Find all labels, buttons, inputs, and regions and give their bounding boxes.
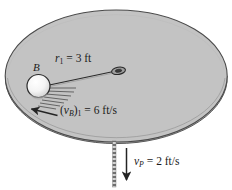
ball-velocity-sub-body: B <box>69 109 74 118</box>
ball-label: B <box>33 62 40 73</box>
radius-label: r1 = 3 ft <box>55 53 91 66</box>
ball-velocity-label: (vB)1 = 6 ft/s <box>60 105 117 118</box>
dashed-axis-icon <box>113 141 116 187</box>
radius-subscript: 1 <box>59 57 63 66</box>
platform-velocity-sub: P <box>139 160 144 169</box>
physics-figure: B r1 = 3 ft (vB)1 = 6 ft/s vP = 2 ft/s <box>0 0 232 190</box>
ball-velocity-sub-index: 1 <box>78 109 82 118</box>
platform-velocity-label: vP = 2 ft/s <box>134 156 179 169</box>
platform-velocity-value: = 2 ft/s <box>147 155 180 167</box>
radius-value: = 3 ft <box>66 52 91 64</box>
figure-canvas <box>0 0 232 190</box>
ball-velocity-value: = 6 ft/s <box>84 104 117 116</box>
